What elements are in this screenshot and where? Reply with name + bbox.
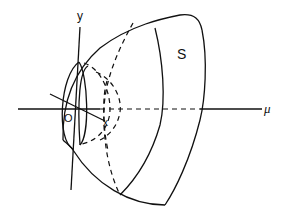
surface-diagram: y O x μ S — [0, 0, 286, 217]
outer-shell-bottom — [63, 140, 165, 205]
inner-lens-left — [62, 62, 79, 149]
mu-axis-label: μ — [263, 101, 271, 116]
x-axis-label: x — [103, 117, 108, 128]
surface-label: S — [177, 46, 186, 62]
x-axis — [50, 94, 105, 121]
middle-contour — [120, 28, 163, 195]
origin-label: O — [64, 112, 73, 124]
y-axis-label: y — [77, 9, 83, 23]
diagram-canvas: y O x μ S — [0, 0, 286, 217]
